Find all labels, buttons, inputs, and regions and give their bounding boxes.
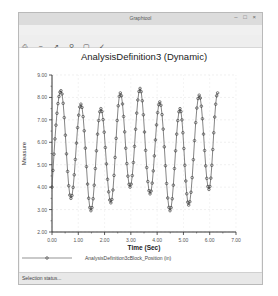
window-title: Graphtool — [19, 15, 262, 21]
x-tick-label: 3.00 — [126, 237, 136, 243]
x-tick-label: 2.00 — [100, 237, 110, 243]
y-tick-label: 8.00 — [37, 94, 47, 100]
x-tick-label: 0.00 — [47, 237, 57, 243]
window-controls[interactable]: – □ × — [234, 14, 258, 20]
x-tick-label: 5.00 — [179, 237, 189, 243]
x-tick-label: 6.00 — [205, 237, 215, 243]
chart-title: AnalysisDefinition3 (Dynamic) — [81, 51, 207, 62]
x-tick-label: 4.00 — [152, 237, 162, 243]
graphtool-window: Graphtool – □ × File View Format ⎙ − ↗ ⚲… — [18, 12, 263, 285]
legend-label: AnalysisDefinition3cBlock_Position (in) — [85, 255, 171, 261]
y-tick-label: 5.00 — [37, 162, 47, 168]
line-chart: AnalysisDefinition3 (Dynamic)2.003.004.0… — [20, 48, 261, 273]
x-axis-label: Time (Sec) — [128, 244, 161, 252]
status-text: Selection status... — [22, 275, 61, 281]
x-tick-label: 7.00 — [231, 237, 241, 243]
status-bar: Selection status... — [19, 272, 262, 284]
y-tick-label: 3.00 — [37, 207, 47, 213]
title-bar[interactable]: Graphtool – □ × — [19, 13, 262, 25]
y-tick-label: 6.00 — [37, 139, 47, 145]
series-line — [52, 88, 218, 210]
y-tick-label: 4.00 — [37, 184, 47, 190]
y-tick-label: 2.00 — [37, 229, 47, 235]
menu-bar: File View Format — [19, 25, 262, 35]
y-axis-label: Measure — [21, 141, 27, 165]
toolbar: ⎙ − ↗ ⚲ ▢ ✓ — [19, 35, 262, 48]
y-tick-label: 7.00 — [37, 117, 47, 123]
x-tick-label: 1.00 — [73, 237, 83, 243]
y-tick-label: 9.00 — [37, 72, 47, 78]
chart-area: AnalysisDefinition3 (Dynamic)2.003.004.0… — [20, 48, 261, 272]
